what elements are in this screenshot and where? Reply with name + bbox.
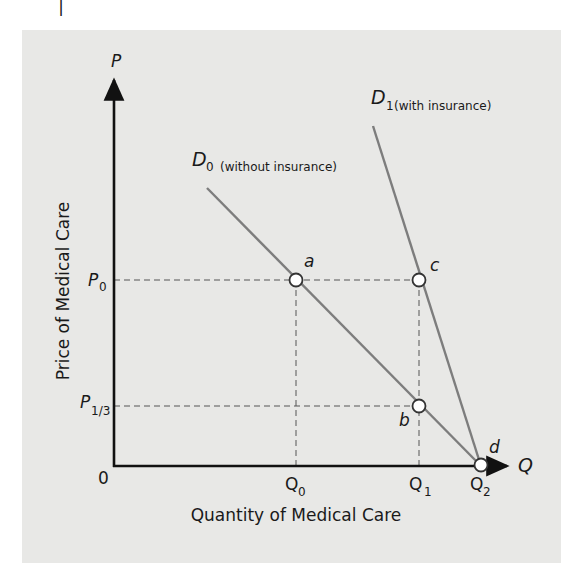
origin-label: 0	[98, 468, 109, 488]
point-b	[413, 400, 426, 413]
y-axis-symbol: P	[111, 51, 122, 71]
svg-text:D: D	[371, 86, 386, 108]
svg-text:0: 0	[206, 160, 214, 174]
q2-label: Q 2	[470, 474, 491, 499]
svg-text:0: 0	[99, 280, 107, 294]
q1-label: Q 1	[409, 474, 432, 499]
x-axis-symbol: Q	[518, 454, 533, 476]
d1-label: D 1 (with insurance)	[371, 86, 491, 113]
d0-curve	[207, 188, 481, 466]
svg-text:Q: Q	[285, 474, 298, 494]
d1-curve	[373, 126, 481, 466]
svg-text:1: 1	[424, 485, 432, 499]
svg-text:(without insurance): (without insurance)	[220, 160, 337, 174]
p13-label: P 1/3	[80, 392, 110, 418]
guide-lines	[114, 280, 419, 465]
point-c	[413, 274, 426, 287]
svg-text:P: P	[88, 270, 99, 290]
svg-text:2: 2	[483, 485, 491, 499]
svg-text:Q: Q	[409, 474, 422, 494]
point-d-label: d	[489, 437, 500, 457]
svg-text:(with insurance): (with insurance)	[394, 99, 491, 113]
svg-text:1: 1	[386, 99, 394, 113]
svg-text:P: P	[80, 392, 91, 412]
d0-label: D 0 (without insurance)	[192, 148, 337, 174]
demand-diagram: P Q 0 Price of Medical Care Quantity of …	[0, 0, 571, 569]
point-a	[290, 274, 303, 287]
point-d	[475, 459, 488, 472]
point-b-label: b	[399, 410, 410, 430]
x-axis-title: Quantity of Medical Care	[191, 505, 402, 525]
svg-text:0: 0	[298, 485, 306, 499]
q0-label: Q 0	[285, 474, 306, 499]
svg-text:D: D	[192, 148, 207, 170]
p0-label: P 0	[88, 270, 107, 294]
point-c-label: c	[430, 255, 440, 275]
y-axis-title: Price of Medical Care	[53, 202, 73, 381]
svg-text:1/3: 1/3	[91, 404, 110, 418]
svg-text:Q: Q	[470, 474, 483, 494]
point-a-label: a	[304, 251, 314, 271]
